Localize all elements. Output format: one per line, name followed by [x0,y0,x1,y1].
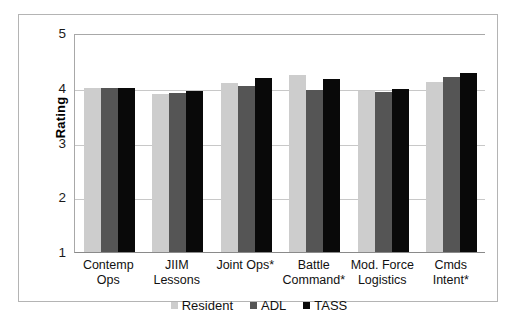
bar-tass[interactable] [392,89,409,252]
bar-adl[interactable] [443,77,460,252]
bar-tass[interactable] [460,73,477,252]
bar-adl[interactable] [101,88,118,252]
bar-group [144,35,213,252]
legend-item-tass[interactable]: TASS [303,298,347,313]
legend-label: ADL [261,298,286,313]
legend-label: Resident [182,298,233,313]
legend-swatch-icon [171,302,178,309]
bar-adl[interactable] [306,90,323,252]
y-tick-label-4: 4 [40,82,66,96]
bar-group [75,35,144,252]
bar-resident[interactable] [358,91,375,252]
y-tick-label-2: 2 [40,191,66,205]
bar-resident[interactable] [221,83,238,252]
bar-resident[interactable] [426,82,443,252]
bar-group [281,35,350,252]
category-label-line-1: Lessons [135,273,220,288]
category-label: CmdsIntent* [409,258,494,288]
bar-group [212,35,281,252]
category-label-line-0: Cmds [409,258,494,273]
bar-tass[interactable] [255,78,272,252]
y-tick-label-3: 3 [40,137,66,151]
legend-item-adl[interactable]: ADL [250,298,286,313]
bar-tass[interactable] [323,79,340,252]
bar-group [349,35,418,252]
bar-adl[interactable] [375,92,392,252]
bar-tass[interactable] [118,88,135,252]
bar-resident[interactable] [84,88,101,252]
legend-item-resident[interactable]: Resident [171,298,233,313]
y-tick-label-1: 1 [40,246,66,260]
bar-adl[interactable] [169,93,186,252]
plot-area [74,34,485,253]
chart-legend: ResidentADLTASS [19,298,499,313]
bar-group [418,35,487,252]
bar-resident[interactable] [289,75,306,252]
category-label-line-1: Intent* [409,273,494,288]
legend-label: TASS [314,298,347,313]
bar-tass[interactable] [186,91,203,253]
y-tick-label-5: 5 [40,27,66,41]
bar-adl[interactable] [238,86,255,252]
bar-resident[interactable] [152,94,169,252]
legend-swatch-icon [303,302,310,309]
chart-frame: Rating 12345 ContempOpsJIIMLessonsJoint … [18,14,498,302]
legend-swatch-icon [250,302,257,309]
